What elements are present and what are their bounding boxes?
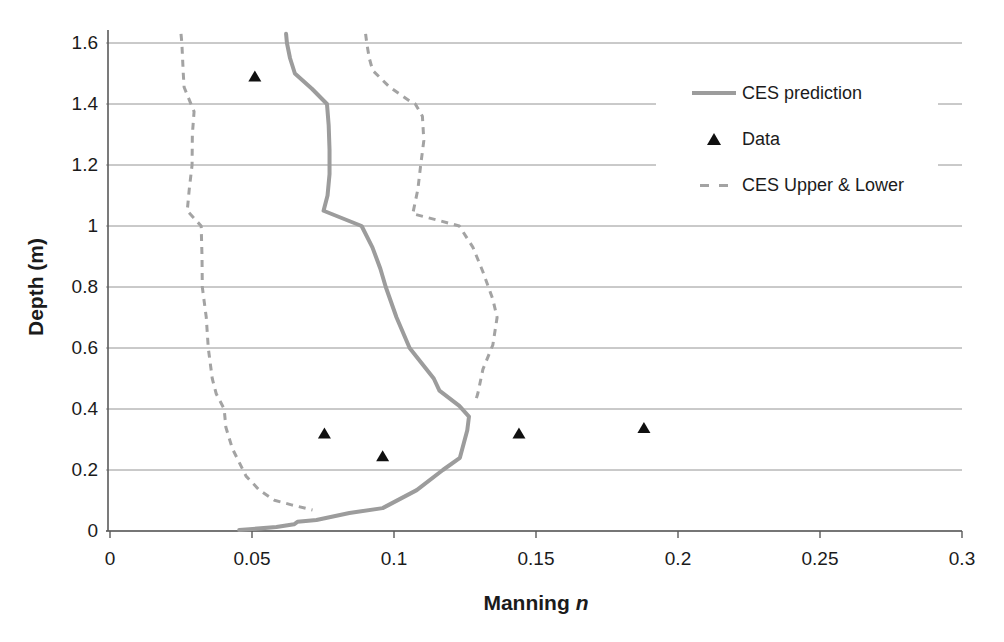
x-axis-title-text: Manning [483, 591, 569, 614]
legend-item-data: Data [656, 116, 938, 162]
y-tick-label: 1.2 [34, 154, 98, 176]
x-axis-title: Manningn [483, 591, 588, 615]
legend-item-label: CES prediction [742, 83, 862, 104]
data-point-triangle [637, 422, 650, 433]
data-point-triangle [376, 450, 389, 461]
ces-prediction-line [239, 34, 469, 530]
y-tick-label: 0.4 [34, 398, 98, 420]
x-tick-label: 0.1 [354, 548, 434, 570]
y-tick-label: 0.2 [34, 459, 98, 481]
legend-item-ces-prediction: CES prediction [656, 70, 938, 116]
data-point-triangle [512, 427, 525, 438]
y-tick-label: 0.6 [34, 337, 98, 359]
legend-item-label: CES Upper & Lower [742, 175, 904, 196]
data-point-triangle [248, 71, 261, 82]
x-axis-title-italic-n: n [576, 591, 589, 614]
ces-lower-line [181, 34, 312, 510]
legend-item-ces-upper-lower: CES Upper & Lower [656, 162, 938, 208]
data-point-triangle [318, 427, 331, 438]
x-tick-label: 0.2 [638, 548, 718, 570]
legend-item-label: Data [742, 129, 780, 150]
legend: CES prediction Data CES Upper & Lower [656, 62, 938, 210]
solid-line-swatch-icon [690, 91, 738, 95]
x-tick-label: 0.05 [212, 548, 292, 570]
x-tick-label: 0 [70, 548, 150, 570]
y-tick-label: 1.6 [34, 32, 98, 54]
x-tick-label: 0.3 [922, 548, 1002, 570]
y-tick-label: 1 [34, 215, 98, 237]
ces-manning-depth-chart: 00.20.40.60.811.21.41.6 00.050.10.150.20… [0, 0, 1004, 642]
y-tick-label: 0 [34, 520, 98, 542]
x-tick-label: 0.15 [496, 548, 576, 570]
dashed-line-swatch-icon [690, 184, 738, 187]
y-tick-label: 1.4 [34, 93, 98, 115]
y-axis-title: Depth (m) [24, 238, 48, 336]
triangle-marker-icon [690, 133, 738, 145]
x-tick-label: 0.25 [780, 548, 860, 570]
